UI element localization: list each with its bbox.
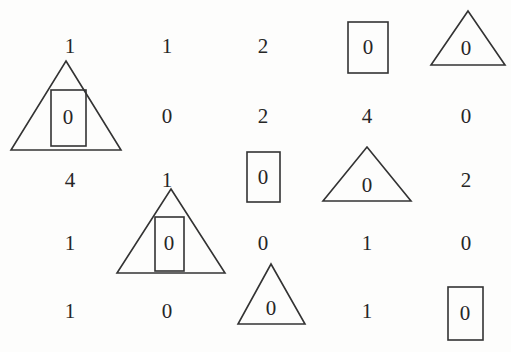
digit-row2-col5: 0 (461, 106, 472, 127)
digit-row3-col5: 2 (461, 170, 472, 191)
digit-row2-col2: 0 (162, 106, 173, 127)
digit-row2-col1: 0 (63, 107, 74, 128)
digit-row2-col3: 2 (258, 106, 269, 127)
digit-row5-col5: 0 (460, 303, 471, 324)
digit-row3-col1: 4 (65, 170, 76, 191)
digit-row3-col2: 1 (162, 170, 173, 191)
shape-overlay-layer (0, 0, 511, 352)
digit-row5-col4: 1 (362, 301, 373, 322)
digit-row1-col5: 0 (461, 38, 472, 59)
digit-row1-col4: 0 (363, 37, 374, 58)
digit-row5-col2: 0 (162, 301, 173, 322)
digit-row3-col3: 0 (258, 167, 269, 188)
digit-row4-col4: 1 (362, 233, 373, 254)
digit-row4-col1: 1 (65, 233, 76, 254)
digit-row2-col4: 4 (362, 106, 373, 127)
figure-canvas: 1120000240410021001010010 (0, 0, 511, 352)
digit-row1-col1: 1 (65, 36, 76, 57)
digit-row3-col4: 0 (362, 175, 373, 196)
digit-row4-col2: 0 (164, 233, 175, 254)
digit-row1-col3: 2 (258, 36, 269, 57)
digit-row5-col1: 1 (65, 301, 76, 322)
digit-row5-col3: 0 (266, 298, 277, 319)
digit-row1-col2: 1 (162, 36, 173, 57)
digit-row4-col5: 0 (461, 233, 472, 254)
digit-row4-col3: 0 (258, 233, 269, 254)
